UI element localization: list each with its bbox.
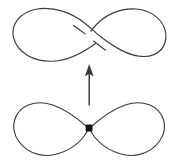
- figure-eight-diagram-svg: [0, 0, 178, 163]
- top-curve-under-strand-lower-right: [94, 41, 106, 50]
- bottom-curve-left-lobe: [14, 103, 89, 156]
- top-curve-under-strand-upper-left: [74, 26, 86, 34]
- bottom-curve-right-lobe: [90, 103, 165, 156]
- transform-arrow-group: [85, 64, 94, 106]
- bottom-curve-group: [14, 103, 165, 156]
- top-curve-group: [13, 8, 166, 61]
- singular-node-dot: [86, 125, 93, 132]
- diagram-canvas: [0, 0, 178, 163]
- top-curve-over-strand: [13, 8, 166, 61]
